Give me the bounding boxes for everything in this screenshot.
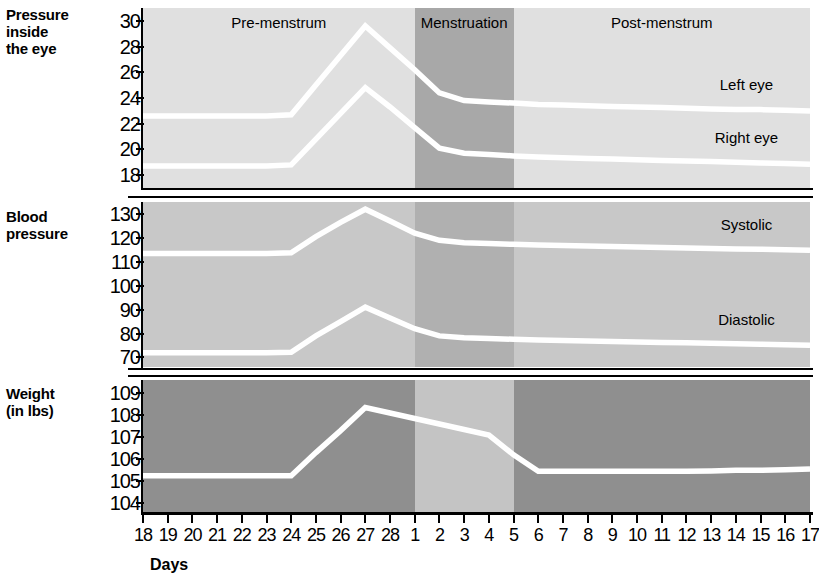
y-tick-mark: [136, 20, 144, 22]
x-tick-mark: [537, 514, 539, 523]
x-tick-mark: [290, 514, 292, 523]
x-tick-label: 7: [558, 526, 567, 544]
x-tick-label: 20: [183, 526, 201, 544]
y-tick-label: 110: [92, 252, 140, 272]
x-tick-mark: [784, 514, 786, 523]
x-tick-mark: [611, 514, 613, 523]
y-tick-label: 109: [92, 383, 140, 403]
y-tick-mark: [136, 458, 144, 460]
panel-2-plot: [143, 202, 810, 367]
x-tick-label: 2: [435, 526, 444, 544]
x-tick-label: 19: [159, 526, 177, 544]
y-tick-label: 80: [92, 324, 140, 344]
x-tick-mark: [414, 514, 416, 523]
x-tick-label: 17: [801, 526, 819, 544]
phase-label-post-menstrum: Post-menstrum: [611, 14, 713, 31]
series-label-left-eye: Left eye: [720, 76, 773, 93]
x-tick-mark: [710, 514, 712, 523]
x-tick-mark: [364, 514, 366, 523]
series-line-systolic: [143, 209, 810, 253]
x-tick-label: 26: [332, 526, 350, 544]
x-tick-mark: [661, 514, 663, 523]
y-tick-mark: [136, 237, 144, 239]
series-svg: [143, 380, 810, 512]
x-tick-mark: [513, 514, 515, 523]
y-tick-label: 18: [92, 165, 140, 185]
x-tick-label: 24: [282, 526, 300, 544]
y-tick-label: 120: [92, 228, 140, 248]
y-tick-mark: [136, 356, 144, 358]
x-tick-label: 28: [381, 526, 399, 544]
x-tick-label: 3: [460, 526, 469, 544]
x-tick-mark: [315, 514, 317, 523]
y-tick-mark: [136, 309, 144, 311]
x-tick-mark: [735, 514, 737, 523]
x-tick-mark: [216, 514, 218, 523]
series-label-right-eye: Right eye: [715, 129, 778, 146]
y-tick-mark: [136, 123, 144, 125]
y-tick-label: 100: [92, 276, 140, 296]
panel-2-row-title: Blood pressure: [6, 208, 106, 242]
x-tick-label: 22: [233, 526, 251, 544]
x-tick-label: 5: [509, 526, 518, 544]
x-tick-label: 12: [677, 526, 695, 544]
y-tick-mark: [136, 285, 144, 287]
x-tick-mark: [587, 514, 589, 523]
panel-3-y-axis: [141, 380, 143, 513]
y-tick-mark: [136, 436, 144, 438]
y-tick-label: 30: [92, 11, 140, 31]
x-tick-label: 8: [583, 526, 592, 544]
panel-1-bottom-rule: [141, 188, 813, 190]
y-tick-label: 90: [92, 300, 140, 320]
x-tick-label: 9: [608, 526, 617, 544]
panel-3-plot: [143, 380, 810, 512]
x-tick-label: 16: [776, 526, 794, 544]
series-line-weight: [143, 408, 810, 476]
x-tick-mark: [438, 514, 440, 523]
x-tick-mark: [340, 514, 342, 523]
x-tick-label: 1: [410, 526, 419, 544]
x-tick-label: 6: [534, 526, 543, 544]
x-tick-label: 11: [653, 526, 670, 544]
phase-label-pre-menstrum: Pre-menstrum: [231, 14, 326, 31]
series-line-left-eye: [143, 26, 810, 116]
phase-label-menstruation: Menstruation: [421, 14, 508, 31]
panel-1-row-title: Pressure inside the eye: [6, 6, 92, 57]
panel-3-row-title: Weight (in lbs): [6, 385, 106, 419]
x-axis-title: Days: [150, 556, 188, 574]
x-tick-label: 27: [356, 526, 374, 544]
y-tick-label: 104: [92, 493, 140, 513]
x-tick-mark: [809, 514, 811, 523]
x-tick-label: 23: [258, 526, 276, 544]
series-svg: [143, 202, 810, 367]
y-tick-label: 70: [92, 347, 140, 367]
series-label-diastolic: Diastolic: [718, 310, 775, 327]
series-line-diastolic: [143, 307, 810, 353]
y-tick-mark: [136, 148, 144, 150]
panel-1-bottom-rule-2: [128, 196, 813, 198]
x-tick-mark: [685, 514, 687, 523]
y-tick-mark: [136, 71, 144, 73]
series-svg: [143, 8, 810, 188]
y-tick-label: 22: [92, 114, 140, 134]
y-tick-mark: [136, 174, 144, 176]
y-tick-label: 20: [92, 139, 140, 159]
y-tick-mark: [136, 261, 144, 263]
y-tick-label: 26: [92, 62, 140, 82]
y-tick-label: 130: [92, 204, 140, 224]
y-tick-mark: [136, 414, 144, 416]
x-tick-label: 4: [484, 526, 493, 544]
x-tick-mark: [167, 514, 169, 523]
x-tick-label: 14: [727, 526, 745, 544]
series-label-systolic: Systolic: [721, 215, 773, 232]
x-tick-label: 18: [134, 526, 152, 544]
x-tick-mark: [488, 514, 490, 523]
x-tick-label: 15: [752, 526, 770, 544]
y-tick-mark: [136, 480, 144, 482]
y-tick-mark: [136, 392, 144, 394]
y-tick-label: 28: [92, 37, 140, 57]
x-tick-mark: [562, 514, 564, 523]
y-tick-mark: [136, 46, 144, 48]
panel-2-bottom-rule-2: [128, 375, 813, 377]
